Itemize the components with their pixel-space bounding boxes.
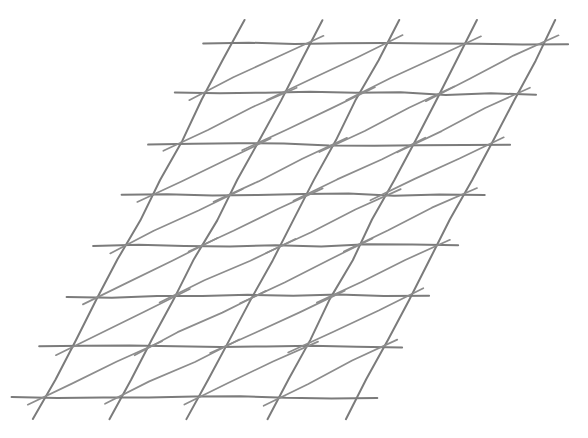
lattice-diagram: [0, 0, 588, 438]
diagram-canvas: [0, 0, 588, 438]
